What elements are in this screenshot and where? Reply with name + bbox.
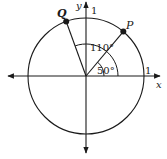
label-angle-50: 50° <box>97 65 115 76</box>
unit-circle-diagram: Q P y 1 1 x 110° 50° <box>0 0 167 159</box>
label-x-axis: x <box>156 79 162 90</box>
label-q: Q <box>57 7 67 20</box>
label-x-one: 1 <box>145 65 151 76</box>
label-p: P <box>125 19 134 32</box>
label-angle-110: 110° <box>90 42 114 53</box>
label-y-axis: y <box>75 0 82 11</box>
label-y-one: 1 <box>91 5 97 16</box>
radius-q <box>66 22 86 77</box>
